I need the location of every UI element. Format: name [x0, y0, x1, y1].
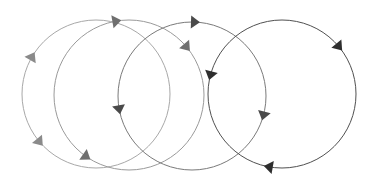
cycle-4-arrowhead-icon	[331, 39, 342, 50]
cycle-4-arrowhead-icon	[264, 161, 274, 174]
cycle-3-arrowhead-icon	[112, 104, 125, 114]
cycle-2-arrowhead-icon	[179, 40, 190, 51]
cycle-2-arrowhead-icon	[79, 149, 90, 160]
cycle-2-circle	[54, 20, 204, 170]
cycle-4-circle	[208, 20, 356, 168]
cycle-3-arrowhead-icon	[191, 15, 200, 28]
cycle-3-circle	[118, 22, 266, 170]
cycle-2-arrowhead-icon	[111, 15, 121, 28]
diagram-svg	[0, 0, 371, 189]
cycle-1-circle	[22, 20, 170, 168]
cycle-1-arrowhead-icon	[24, 52, 35, 63]
cycle-1-arrowhead-icon	[32, 135, 43, 146]
cycles-diagram	[0, 0, 371, 189]
